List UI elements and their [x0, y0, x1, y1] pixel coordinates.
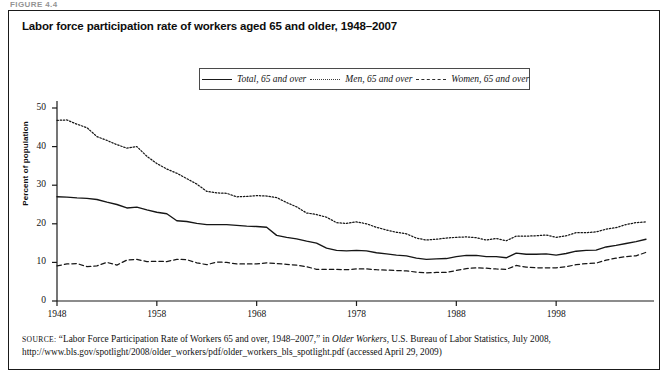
figure-frame: Labor force participation rate of worker… [8, 10, 660, 370]
source-italic-title: Older Workers [332, 334, 387, 344]
source-text-before: “Labor Force Participation Rate of Worke… [57, 334, 332, 344]
x-tick-label: 1978 [336, 309, 376, 319]
y-tick-label: 40 [24, 141, 46, 151]
figure-number-label: FIGURE 4.4 [10, 0, 58, 9]
figure-root: FIGURE 4.4 Labor force participation rat… [0, 0, 670, 380]
x-tick-label: 1968 [237, 309, 277, 319]
y-tick-label: 30 [24, 179, 46, 189]
y-tick-label: 20 [24, 218, 46, 228]
series-line-solid [57, 197, 646, 260]
source-kicker: Source: [22, 335, 57, 344]
y-axis-title: Percent of population [21, 104, 30, 224]
plot-area: Percent of population 010203040501948195… [9, 11, 661, 371]
y-tick-label: 50 [24, 102, 46, 112]
y-tick-label: 10 [24, 256, 46, 266]
x-tick-label: 1988 [436, 309, 476, 319]
x-tick-label: 1998 [536, 309, 576, 319]
x-tick-label: 1958 [137, 309, 177, 319]
series-line-dotted [57, 120, 646, 241]
source-note: Source: “Labor Force Participation Rate … [22, 333, 648, 360]
y-tick-label: 0 [24, 295, 46, 305]
x-tick-label: 1948 [37, 309, 77, 319]
